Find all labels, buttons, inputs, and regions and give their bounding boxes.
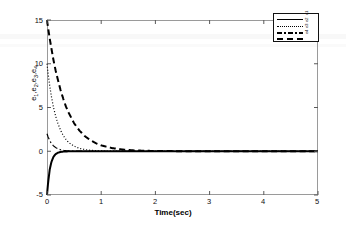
y-axis-label-text: e1,e2,e3,e4: [29, 66, 38, 101]
y-axis-label: e1,e2,e3,e4: [29, 53, 40, 113]
ytick-label: 15: [19, 16, 43, 25]
xtick-label: 4: [253, 197, 273, 206]
legend-row: e4: [277, 35, 317, 43]
legend-swatch-e1: [277, 19, 303, 22]
ytick-label: 0: [19, 147, 43, 156]
legend-box: e1 e2 e3 e4: [273, 13, 319, 42]
legend-label: e2: [304, 18, 310, 22]
legend-label: e1: [304, 11, 310, 15]
xtick-label: 1: [91, 197, 111, 206]
xtick-label: 0: [37, 197, 57, 206]
legend-swatch-e4: [277, 38, 303, 42]
legend-label: e4: [304, 30, 310, 34]
xtick-label: 5: [307, 197, 327, 206]
xtick-label: 2: [145, 197, 165, 206]
figure-canvas: 15 10 5 0 -5 0 1 2 3 4 5 Time(sec) e1,e2…: [0, 0, 346, 230]
x-axis-label: Time(sec): [0, 208, 346, 217]
legend-swatch-e3: [277, 32, 303, 34]
legend-label: e3: [304, 24, 310, 28]
xtick-label: 3: [199, 197, 219, 206]
